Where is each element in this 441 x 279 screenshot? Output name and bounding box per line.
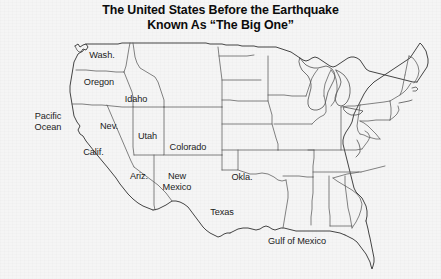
national-outline	[70, 43, 428, 269]
state-borders	[72, 43, 419, 228]
page-title: The United States Before the Earthquake …	[0, 3, 441, 32]
title-line-2: Known As “The Big One”	[0, 18, 441, 33]
us-map	[0, 0, 441, 279]
title-line-1: The United States Before the Earthquake	[0, 3, 441, 18]
